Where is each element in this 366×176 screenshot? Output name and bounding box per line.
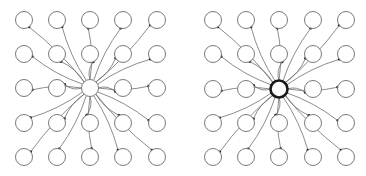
hub-node xyxy=(271,81,288,98)
graph-node xyxy=(271,46,288,63)
graph-node xyxy=(338,12,355,29)
graph-node xyxy=(49,80,66,97)
graph-node xyxy=(115,12,132,29)
graph-node xyxy=(49,149,66,166)
graph-node xyxy=(238,149,255,166)
graph-node xyxy=(16,115,33,132)
graph-node xyxy=(271,12,288,29)
graph-node xyxy=(238,46,255,63)
graph-node xyxy=(238,12,255,29)
graph-node xyxy=(149,80,166,97)
graph-node xyxy=(82,46,99,63)
graph-node xyxy=(305,12,322,29)
graph-node xyxy=(49,12,66,29)
graph-node xyxy=(338,149,355,166)
graph-node xyxy=(205,115,222,132)
graph-node xyxy=(305,46,322,63)
graph-node xyxy=(149,46,166,63)
graph-node xyxy=(305,81,322,98)
diagram-canvas xyxy=(0,0,366,176)
graph-node xyxy=(338,115,355,132)
graph-node xyxy=(149,149,166,166)
hub-node xyxy=(82,80,99,97)
graph-node xyxy=(16,80,33,97)
graph-node xyxy=(115,46,132,63)
graph-node xyxy=(149,12,166,29)
graph-node xyxy=(205,46,222,63)
graph-node xyxy=(115,115,132,132)
graph-node xyxy=(49,115,66,132)
graph-node xyxy=(16,149,33,166)
edge xyxy=(96,58,116,82)
graph-node xyxy=(115,149,132,166)
graph-node xyxy=(238,115,255,132)
graph-node xyxy=(238,81,255,98)
graph-node xyxy=(338,46,355,63)
graph-node xyxy=(205,12,222,29)
graph-node xyxy=(338,81,355,98)
graph-node xyxy=(271,115,288,132)
graph-node xyxy=(205,149,222,166)
graph-node xyxy=(115,80,132,97)
graph-node xyxy=(49,46,66,63)
graph-node xyxy=(305,149,322,166)
graph-node xyxy=(205,81,222,98)
left-panel xyxy=(16,12,166,166)
graph-node xyxy=(82,12,99,29)
graph-node xyxy=(149,115,166,132)
graph-node xyxy=(82,149,99,166)
graph-node xyxy=(16,12,33,29)
graph-node xyxy=(16,46,33,63)
right-panel xyxy=(205,12,355,166)
graph-node xyxy=(271,149,288,166)
graph-node xyxy=(305,115,322,132)
graph-node xyxy=(82,115,99,132)
